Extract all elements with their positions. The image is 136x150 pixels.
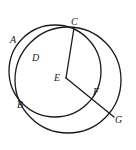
- point-label-b: B: [17, 100, 23, 110]
- point-label-a: A: [10, 35, 16, 45]
- point-label-f: F: [93, 87, 99, 97]
- segment-c-to-e: [66, 28, 74, 78]
- point-label-g: G: [115, 115, 122, 125]
- geometry-canvas: [0, 0, 136, 150]
- segment-e-to-g: [66, 78, 114, 117]
- point-label-e: E: [54, 73, 60, 83]
- point-label-c: C: [71, 17, 78, 27]
- geometry-figure: A C D E B F G: [0, 0, 136, 150]
- point-label-d: D: [32, 53, 39, 63]
